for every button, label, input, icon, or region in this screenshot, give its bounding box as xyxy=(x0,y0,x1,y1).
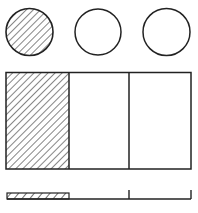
area-model xyxy=(6,73,191,170)
set-model xyxy=(6,9,190,56)
bar-shaded-part xyxy=(7,193,69,199)
circle-empty xyxy=(143,9,190,56)
circle-shaded xyxy=(6,9,53,56)
area-shaded-part xyxy=(6,73,69,170)
bar-model xyxy=(7,190,191,199)
circle-empty xyxy=(75,9,121,55)
fraction-diagram xyxy=(0,0,198,213)
